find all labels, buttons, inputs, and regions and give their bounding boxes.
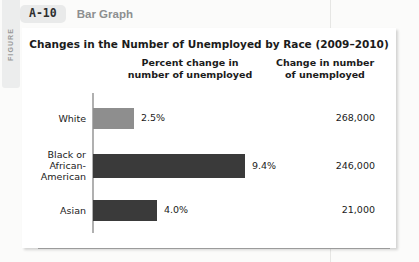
- count-value-label: 21,000: [265, 204, 375, 215]
- column-header-change-in-number: Change in number of unemployed: [265, 57, 385, 81]
- column-header-count-line2: of unemployed: [265, 69, 385, 81]
- chart-card: Changes in the Number of Unemployed by R…: [22, 28, 396, 248]
- column-header-count-line1: Change in number: [265, 57, 385, 69]
- chart-title: Changes in the Number of Unemployed by R…: [22, 38, 396, 50]
- column-header-percent-line1: Percent change in: [119, 57, 261, 69]
- category-label-line1: White: [22, 113, 86, 124]
- bar-asian: [93, 200, 157, 221]
- category-label-line3: American: [22, 171, 86, 182]
- plot-area: White 2.5% 268,000 Black or African- Ame…: [22, 90, 396, 240]
- figure-kind-label: Bar Graph: [77, 8, 133, 20]
- category-label-line2: African-: [22, 160, 86, 171]
- category-label-line1: Black or: [22, 149, 86, 160]
- category-label-line1: Asian: [22, 205, 86, 216]
- bottom-horizontal-rule: [38, 248, 390, 249]
- bar-row: Asian 4.0% 21,000: [22, 194, 396, 234]
- count-value-label: 246,000: [265, 160, 375, 171]
- bar-white: [93, 108, 134, 129]
- category-label: Asian: [22, 205, 86, 216]
- figure-side-tab-label: FIGURE: [8, 27, 15, 60]
- column-header-percent-line2: number of unemployed: [119, 69, 261, 81]
- bar-value-label: 2.5%: [141, 112, 165, 123]
- figure-number-badge: A-10: [20, 5, 66, 24]
- bar-black-or-african-american: [93, 154, 245, 178]
- category-label: Black or African- American: [22, 149, 86, 182]
- bar-row: White 2.5% 268,000: [22, 102, 396, 142]
- bar-row: Black or African- American 9.4% 246,000: [22, 146, 396, 186]
- figure-header: A-10 Bar Graph: [20, 2, 133, 26]
- column-header-percent-change: Percent change in number of unemployed: [119, 57, 261, 81]
- bar-value-label: 4.0%: [164, 204, 188, 215]
- figure-side-tab: FIGURE: [2, 0, 20, 88]
- page-background: FIGURE A-10 Bar Graph Changes in the Num…: [0, 0, 419, 262]
- category-label: White: [22, 113, 86, 124]
- count-value-label: 268,000: [265, 112, 375, 123]
